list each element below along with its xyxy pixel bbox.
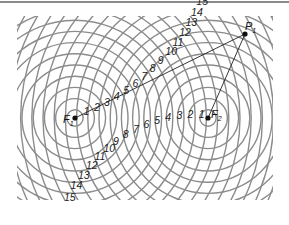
f2-ring-label: 15 bbox=[64, 191, 76, 203]
f2-ring-label: 2 bbox=[187, 108, 194, 120]
f2-ring-label: 5 bbox=[154, 114, 160, 126]
source-f2-label: F2 bbox=[211, 108, 222, 122]
f1-ring-label: 6 bbox=[132, 77, 138, 89]
f1-ring-label: 4 bbox=[114, 90, 120, 102]
f2-ring-label: 8 bbox=[123, 128, 129, 140]
point-p1 bbox=[242, 31, 247, 36]
f2-ring-label: 3 bbox=[176, 109, 182, 121]
f2-ring-label: 4 bbox=[165, 111, 171, 123]
f1-ring-label: 5 bbox=[123, 84, 129, 96]
f1-ring-label: 9 bbox=[158, 54, 164, 66]
f2-ring-label: 6 bbox=[144, 118, 150, 130]
f1-ring-label: 15 bbox=[196, 0, 208, 7]
f1-ring-label: 2 bbox=[93, 101, 100, 113]
f1-ring-label: 7 bbox=[141, 70, 148, 82]
f1-ring-label: 1 bbox=[84, 105, 90, 117]
f1-ring-label: 8 bbox=[150, 62, 156, 74]
interference-diagram: F1 F2 P1 12345678910111213141516 1234567… bbox=[0, 0, 289, 225]
source-f1-label: F1 bbox=[63, 113, 74, 127]
point-p1-label: P1 bbox=[245, 20, 256, 34]
f1-ring-label: 3 bbox=[104, 96, 110, 108]
f1-ring-label: 13 bbox=[185, 16, 197, 28]
f2-ring-label: 1 bbox=[199, 108, 205, 120]
source-f2-point bbox=[205, 115, 210, 120]
f1-ring-label: 14 bbox=[191, 6, 203, 18]
